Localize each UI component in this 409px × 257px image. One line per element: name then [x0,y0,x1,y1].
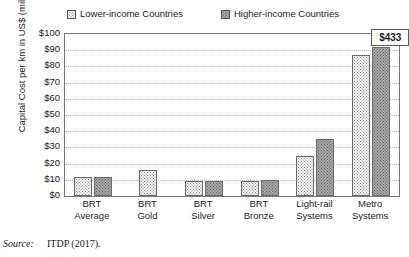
x-axis-tick-labels: BRTAverageBRTGoldBRTSilverBRTBronzeLight… [64,198,398,228]
y-axis-tick-label: $30 [44,141,60,151]
bar-higher-income [372,47,390,196]
bar-lower-income [139,170,157,196]
bar-higher-income [316,139,334,196]
source-caption: Source:ITDP (2017). [3,238,101,249]
bar-group [343,34,399,196]
x-axis-tick-label-line: Average [64,210,120,222]
x-axis-tick-label-line: BRT [64,198,120,210]
y-axis-tick-label: $70 [44,77,60,87]
source-text: ITDP (2017). [47,238,101,249]
bar-lower-income [185,181,203,196]
x-axis-tick-label-line: BRT [175,198,231,210]
y-axis-tick-label: $90 [44,44,60,54]
x-axis-tick-label-line: Silver [175,210,231,222]
x-axis-tick-label-line: Systems [287,210,343,222]
y-axis-tick-label: $60 [44,93,60,103]
bar-group [232,34,288,196]
bar-group [176,34,232,196]
x-axis-tick-label: Light-railSystems [287,198,343,222]
bar-lower-income [241,181,259,196]
y-axis-tick-label: $50 [44,109,60,119]
x-axis-tick-label-line: Gold [120,210,176,222]
x-axis-tick-label: BRTSilver [175,198,231,222]
legend-swatch-lower-income-icon [67,10,76,19]
x-axis-tick-label: MetroSystems [342,198,398,222]
legend-label-higher-income: Higher-income Countries [234,9,339,19]
chart-legend: Lower-income Countries Higher-income Cou… [0,4,406,24]
y-axis-tick-label: $40 [44,125,60,135]
y-axis-tick-label: $100 [39,28,60,38]
legend-item-lower-income: Lower-income Countries [67,9,183,19]
x-axis-tick-label-line: BRT [120,198,176,210]
x-axis-tick-label: BRTAverage [64,198,120,222]
bar-group [288,34,344,196]
x-axis-tick-label-line: Bronze [231,210,287,222]
bar-lower-income [296,156,314,197]
bar-lower-income [74,177,92,196]
bar-higher-income [205,181,223,196]
y-axis-tick-label: $20 [44,158,60,168]
x-axis-tick-label: BRTBronze [231,198,287,222]
chart-plot-area [64,33,400,197]
chart-bars [65,34,399,196]
y-axis-tick-label: $10 [44,174,60,184]
legend-label-lower-income: Lower-income Countries [80,9,183,19]
y-axis-tick-label: $80 [44,60,60,70]
x-axis-tick-label: BRTGold [120,198,176,222]
x-axis-tick-label-line: Systems [342,210,398,222]
bar-lower-income [352,55,370,196]
y-axis-tick-label: $0 [49,190,60,200]
y-axis-tick-labels: $100$90$80$70$60$50$40$30$20$10$0 [22,27,60,201]
legend-item-higher-income: Higher-income Countries [221,9,339,19]
bar-group [65,34,121,196]
legend-swatch-higher-income-icon [221,10,230,19]
source-label: Source: [3,238,47,249]
x-axis-tick-label-line: Light-rail [287,198,343,210]
bar-group [121,34,177,196]
bar-higher-income [261,180,279,196]
bar-higher-income [94,177,112,196]
x-axis-tick-label-line: Metro [342,198,398,210]
value-callout: $433 [371,29,409,46]
x-axis-tick-label-line: BRT [231,198,287,210]
